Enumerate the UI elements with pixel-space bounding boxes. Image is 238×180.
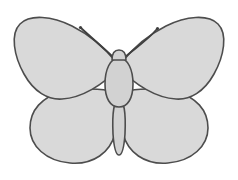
abdomen <box>113 100 126 155</box>
hindwing-right <box>121 89 208 163</box>
hindwing-left <box>30 89 117 163</box>
head <box>112 50 126 60</box>
antenna-club-left-icon <box>79 26 82 29</box>
thorax <box>105 58 133 107</box>
butterfly-illustration: Butterfly <box>0 0 238 180</box>
illustration-canvas: Butterfly <box>0 0 238 180</box>
antenna-club-right-icon <box>156 27 159 30</box>
